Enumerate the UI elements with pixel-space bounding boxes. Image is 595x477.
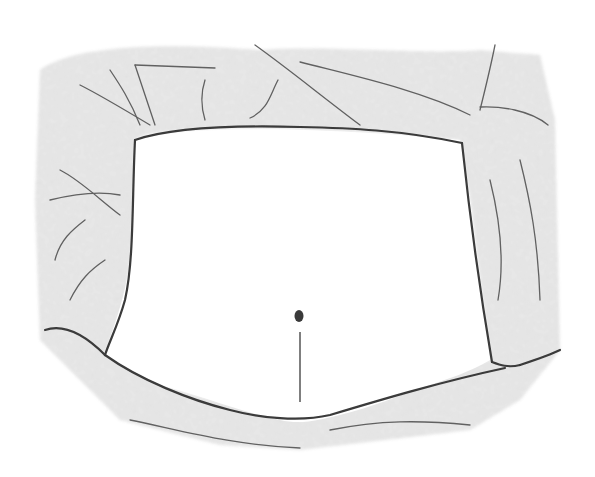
inner-area	[105, 129, 490, 422]
navel-dot	[295, 310, 304, 322]
pencil-sketch	[0, 0, 595, 477]
